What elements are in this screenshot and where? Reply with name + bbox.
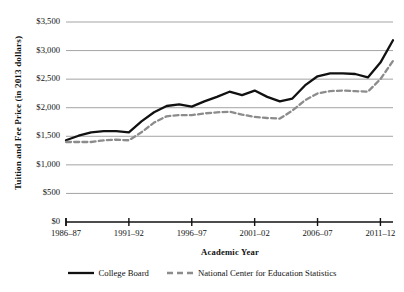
series-line-college-board: [66, 40, 393, 140]
x-axis: [66, 218, 393, 226]
legend-label: National Center for Education Statistics: [198, 268, 336, 278]
solid-line-swatch: [68, 268, 94, 278]
dashed-line-swatch: [167, 268, 193, 278]
legend-entry: College Board: [68, 268, 149, 278]
tuition-fee-price-line-chart: Tuition and Fee Price (in 2013 dollars) …: [0, 0, 404, 292]
x-axis-title: Academic Year: [60, 247, 400, 257]
gridlines: [66, 22, 393, 193]
chart-legend: College BoardNational Center for Educati…: [0, 268, 404, 278]
legend-entry: National Center for Education Statistics: [167, 268, 336, 278]
legend-label: College Board: [99, 268, 149, 278]
